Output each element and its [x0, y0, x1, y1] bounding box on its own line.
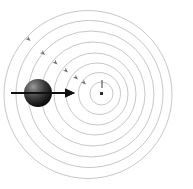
center-dot: [100, 92, 103, 95]
figure-root: [0, 0, 193, 189]
wavefront-diagram: [0, 0, 193, 189]
